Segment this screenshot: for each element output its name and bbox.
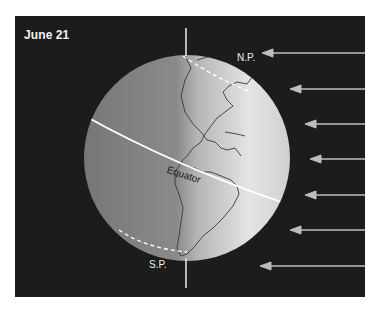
globe-scene [15,16,365,297]
earth-globe [84,55,290,261]
diagram-title: June 21 [24,28,69,42]
diagram-frame: June 21 N.P. S.P. Equator [15,16,365,297]
south-pole-label: S.P. [149,259,167,270]
north-pole-label: N.P. [237,52,255,63]
